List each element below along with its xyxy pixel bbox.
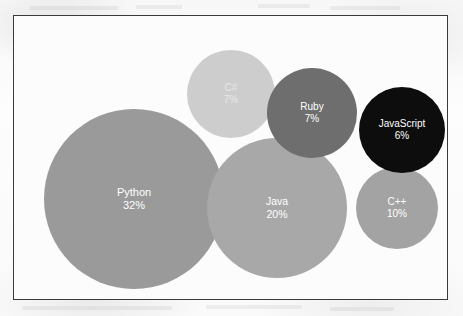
- ghost-text-line: [136, 5, 182, 9]
- bubble-ruby[interactable]: Ruby7%: [267, 68, 357, 158]
- bubble-label: C#: [225, 82, 238, 94]
- bubble-label: Java: [266, 195, 288, 208]
- ghost-text-line: [30, 6, 118, 10]
- bubble-label: C++: [388, 196, 407, 208]
- bubble-value: 7%: [305, 113, 319, 125]
- bubble-c[interactable]: C++10%: [356, 167, 438, 249]
- scanned-page: Python32%Java20%C++10%C#7%Ruby7%JavaScri…: [0, 0, 463, 316]
- bubble-value: 20%: [266, 208, 287, 221]
- ghost-text-line: [206, 305, 302, 309]
- bubble-javascript[interactable]: JavaScript6%: [359, 87, 445, 173]
- bubble-chart-plot-area: Python32%Java20%C++10%C#7%Ruby7%JavaScri…: [14, 16, 447, 299]
- bubble-java[interactable]: Java20%: [207, 138, 347, 278]
- bubble-chart-frame: Python32%Java20%C++10%C#7%Ruby7%JavaScri…: [13, 15, 448, 300]
- bubble-value: 6%: [395, 130, 409, 142]
- ghost-text-line: [22, 306, 172, 310]
- ghost-text-line: [330, 6, 400, 10]
- bubble-python[interactable]: Python32%: [44, 109, 224, 289]
- bubble-c[interactable]: C#7%: [187, 50, 275, 138]
- bubble-label: JavaScript: [379, 118, 426, 130]
- bubble-value: 10%: [387, 208, 407, 220]
- ghost-text-line: [330, 307, 394, 311]
- ghost-text-line: [258, 4, 310, 8]
- bubble-value: 7%: [224, 94, 238, 106]
- bubble-label: Ruby: [300, 101, 323, 113]
- bubble-label: Python: [117, 186, 151, 199]
- bubble-value: 32%: [123, 199, 145, 212]
